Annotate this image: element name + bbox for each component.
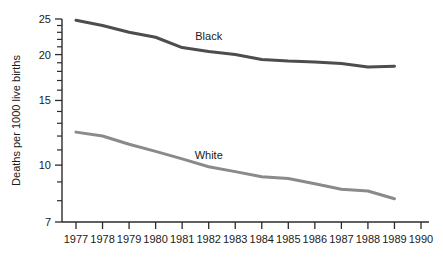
y-axis-title-text: Deaths per 1000 live births [10, 55, 22, 186]
infant-mortality-line-chart: 252015107 197719781979198019811982198319… [0, 0, 443, 259]
y-tick-label: 25 [39, 13, 51, 25]
x-axis: 1977197819791980198119821983198419851986… [62, 222, 433, 245]
x-tick-label: 1989 [382, 233, 406, 245]
x-tick-label: 1982 [196, 233, 220, 245]
x-tick-label: 1978 [90, 233, 114, 245]
x-tick-label: 1980 [143, 233, 167, 245]
series-line-black [76, 20, 394, 67]
y-tick-label: 7 [45, 216, 51, 228]
y-tick-label: 20 [39, 49, 51, 61]
x-tick-label: 1988 [356, 233, 380, 245]
series-layer [76, 20, 394, 198]
y-tick-label: 15 [39, 94, 51, 106]
y-tick-label: 10 [39, 159, 51, 171]
series-line-white [76, 132, 394, 199]
x-tick-label: 1987 [329, 233, 353, 245]
x-tick-label: 1990 [409, 233, 433, 245]
x-tick-label: 1979 [117, 233, 141, 245]
x-tick-label: 1986 [303, 233, 327, 245]
series-label-white: White [195, 149, 223, 161]
x-tick-label: 1981 [170, 233, 194, 245]
chart-canvas: 252015107 197719781979198019811982198319… [0, 0, 443, 259]
x-tick-label: 1977 [64, 233, 88, 245]
x-tick-label: 1983 [223, 233, 247, 245]
y-axis-title: Deaths per 1000 live births [10, 55, 22, 186]
x-tick-label: 1984 [250, 233, 274, 245]
y-axis: 252015107 [39, 13, 62, 228]
x-tick-label: 1985 [276, 233, 300, 245]
series-label-black: Black [195, 30, 222, 42]
